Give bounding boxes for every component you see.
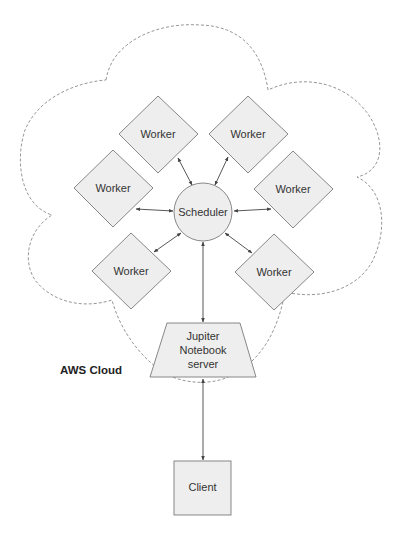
worker-bottom-right: Worker: [235, 234, 314, 310]
worker-right: Worker: [254, 151, 333, 228]
link-scheduler-worker-top-right: [215, 157, 228, 185]
client-label: Client: [188, 481, 216, 493]
worker-top-left: Worker: [119, 96, 198, 173]
notebook-label-line-1: Jupiter: [186, 330, 219, 342]
link-scheduler-worker-bottom-right: [225, 233, 252, 253]
worker-bottom-left: Worker: [92, 233, 171, 309]
link-scheduler-worker-bottom-left: [154, 233, 181, 252]
aws-cloud-label: AWS Cloud: [60, 364, 122, 376]
worker-label: Worker: [256, 266, 292, 278]
worker-top-right: Worker: [209, 96, 288, 173]
link-scheduler-worker-left: [136, 209, 173, 211]
notebook-label-line-2: Notebook: [179, 344, 227, 356]
link-scheduler-worker-right: [234, 209, 271, 211]
scheduler-label: Scheduler: [178, 206, 228, 218]
client-node: Client: [174, 461, 231, 515]
architecture-diagram: Worker Worker Worker Worker Worker Worke…: [0, 0, 405, 536]
worker-label: Worker: [113, 265, 149, 277]
scheduler-node: Scheduler: [174, 183, 232, 241]
worker-label: Worker: [95, 182, 131, 194]
link-scheduler-worker-top-left: [178, 158, 192, 185]
worker-left: Worker: [74, 150, 153, 227]
notebook-server-node: Jupiter Notebook server: [150, 323, 256, 377]
worker-label: Worker: [140, 128, 176, 140]
notebook-label-line-3: server: [188, 358, 219, 370]
worker-label: Worker: [275, 183, 311, 195]
worker-label: Worker: [230, 128, 266, 140]
